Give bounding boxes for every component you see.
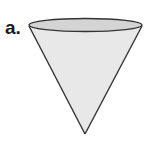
cone-side [29, 26, 142, 134]
cone-top-ellipse [29, 19, 142, 32]
cone-icon [0, 0, 153, 141]
